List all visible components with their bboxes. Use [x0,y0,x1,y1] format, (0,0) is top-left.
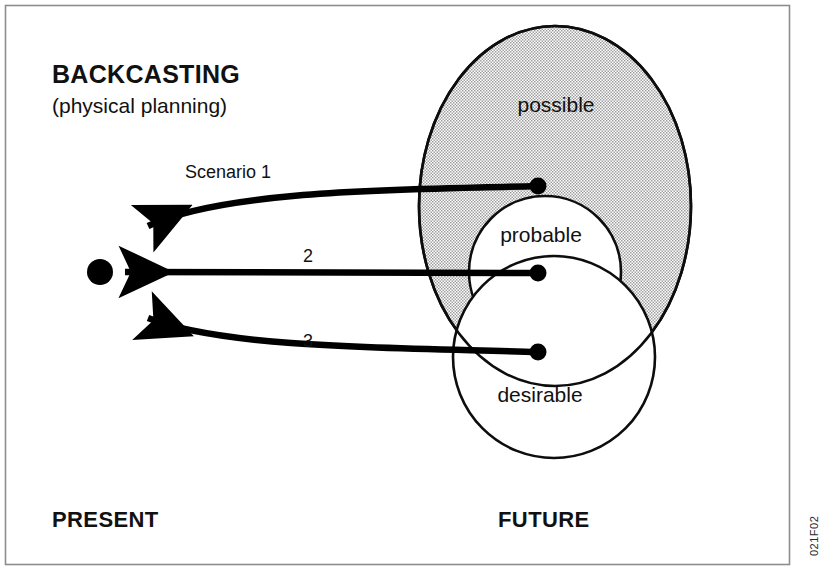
figure-title: BACKCASTING [52,60,240,88]
scenario-1-endpoint-dot [530,178,547,195]
backcasting-diagram: possible probable desirable Scenario 1 2… [0,0,838,580]
scenario-2-endpoint-dot [530,265,547,282]
scenario-1-label: Scenario 1 [185,162,271,182]
region-possible-label: possible [517,93,594,116]
scenario-2-label: 2 [303,246,313,266]
region-desirable-shape [453,256,655,458]
present-point-dot [87,259,113,285]
region-desirable-label: desirable [497,383,582,406]
region-probable-label: probable [500,223,582,246]
future-axis-label: FUTURE [498,507,590,532]
plate-code: 021F02 [808,516,820,556]
figure-canvas: possible probable desirable Scenario 1 2… [0,0,838,580]
present-axis-label: PRESENT [52,507,159,532]
scenario-3-label: 3 [303,331,313,351]
scenario-3-endpoint-dot [530,344,547,361]
scenario-2-arrow [125,272,538,273]
figure-subtitle: (physical planning) [52,94,227,117]
